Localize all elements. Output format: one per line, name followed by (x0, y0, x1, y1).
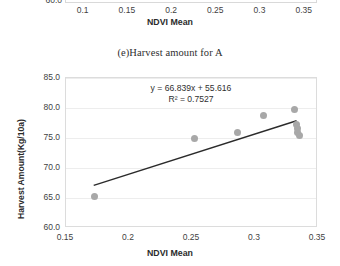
top-chart-xaxis-tick-label: 0.2 (151, 6, 191, 15)
xaxis-tick-label: 0.2 (108, 233, 148, 242)
top-chart-ytick-60: 60.0 (34, 0, 62, 5)
top-chart-xaxis-tick-label: 0.1 (63, 6, 103, 15)
regression-trendline (66, 78, 318, 228)
top-chart-xaxis-tick-label: 0.25 (195, 6, 235, 15)
xaxis-tick-label: 0.3 (234, 233, 274, 242)
yaxis-tick-label: 70.0 (30, 163, 60, 172)
yaxis-tick-label: 65.0 (30, 193, 60, 202)
top-chart-xaxis-tick-label: 0.35 (284, 6, 324, 15)
top-chart-plot-frame (65, 0, 317, 3)
harvest-scatter-figure: (e)Harvest amount for A y = 66.839x + 55… (0, 47, 340, 266)
top-chart-xaxis-title: NDVI Mean (0, 17, 340, 27)
top-chart-clipped: 60.0 0.10.150.20.250.30.35 NDVI Mean (0, 0, 340, 38)
scatter-point (234, 129, 241, 136)
xaxis-title: NDVI Mean (0, 248, 340, 258)
yaxis-title: Harvest Amount(Kg/10a) (16, 119, 26, 219)
xaxis-tick-label: 0.25 (171, 233, 211, 242)
xaxis-tick-label: 0.35 (297, 233, 337, 242)
yaxis-tick-label: 75.0 (30, 133, 60, 142)
xaxis-tick-label: 0.15 (45, 233, 85, 242)
scatter-point (291, 106, 298, 113)
top-chart-xaxis-tick-label: 0.15 (107, 6, 147, 15)
chart-title: (e)Harvest amount for A (0, 47, 340, 58)
top-chart-xaxis-tick-label: 0.3 (240, 6, 280, 15)
plot-area: y = 66.839x + 55.616 R² = 0.7527 (65, 77, 317, 227)
scatter-point (296, 132, 303, 139)
yaxis-tick-label: 80.0 (30, 103, 60, 112)
yaxis-tick-label: 60.0 (30, 223, 60, 232)
yaxis-tick-label: 85.0 (30, 73, 60, 82)
